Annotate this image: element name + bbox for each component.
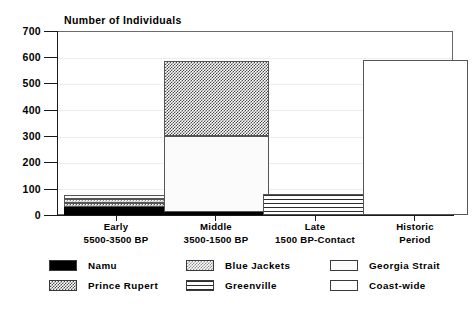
y-tick-label-0: 0 bbox=[0, 209, 41, 221]
y-tick-100 bbox=[44, 189, 57, 190]
y-tick-400 bbox=[44, 110, 57, 111]
legend-item-coast-wide[interactable]: Coast-wide bbox=[330, 278, 426, 292]
bar-historic-segment-coast-wide bbox=[363, 60, 468, 215]
bar-early bbox=[64, 195, 169, 216]
y-tick-300 bbox=[44, 136, 57, 137]
y-tick-700 bbox=[44, 31, 57, 32]
bar-early-segment-namu bbox=[64, 207, 169, 215]
plot-area: Number of Individuals 700 600 500 400 30… bbox=[0, 0, 472, 250]
y-tick-label-700: 700 bbox=[0, 25, 41, 37]
x-axis-label-historic-line2: Period bbox=[355, 234, 472, 247]
bar-middle bbox=[164, 61, 269, 215]
y-tick-0 bbox=[44, 215, 57, 216]
light-checker-swatch-icon bbox=[186, 260, 214, 271]
y-tick-label-600: 600 bbox=[0, 51, 41, 63]
chart-figure: Number of Individuals 700 600 500 400 30… bbox=[0, 0, 472, 310]
legend-item-prince-rupert[interactable]: Prince Rupert bbox=[49, 278, 158, 292]
legend-label-coast-wide: Coast-wide bbox=[369, 280, 426, 291]
gridline-600 bbox=[58, 58, 452, 59]
legend-label-namu: Namu bbox=[88, 260, 117, 271]
white-swatch-icon bbox=[330, 280, 358, 291]
chart-title: Number of Individuals bbox=[64, 14, 182, 26]
legend-label-prince-rupert: Prince Rupert bbox=[88, 280, 158, 291]
solid-black-swatch-icon bbox=[49, 260, 77, 271]
horizontal-lines-swatch-icon bbox=[186, 280, 214, 291]
y-tick-200 bbox=[44, 162, 57, 163]
y-tick-label-300: 300 bbox=[0, 130, 41, 142]
y-tick-label-400: 400 bbox=[0, 104, 41, 116]
legend-item-namu[interactable]: Namu bbox=[49, 258, 117, 272]
y-tick-label-100: 100 bbox=[0, 183, 41, 195]
legend-item-georgia-strait[interactable]: Georgia Strait bbox=[330, 258, 440, 272]
bar-late-segment-greenville bbox=[263, 194, 368, 215]
legend-label-georgia-strait: Georgia Strait bbox=[369, 260, 440, 271]
x-axis-label-historic-line1: Historic bbox=[355, 221, 472, 234]
bar-middle-segment-georgia-strait bbox=[164, 136, 269, 212]
x-axis-label-historic: Historic Period bbox=[355, 221, 472, 246]
y-tick-500 bbox=[44, 83, 57, 84]
dense-checker-swatch-icon bbox=[49, 280, 77, 291]
y-axis bbox=[57, 31, 58, 216]
legend-item-blue-jackets[interactable]: Blue Jackets bbox=[186, 258, 290, 272]
bar-late bbox=[263, 194, 368, 215]
legend-item-greenville[interactable]: Greenville bbox=[186, 278, 277, 292]
y-tick-600 bbox=[44, 57, 57, 58]
legend-label-greenville: Greenville bbox=[225, 280, 277, 291]
chart-legend: Namu Prince Rupert Blue Jackets Greenvil… bbox=[0, 252, 472, 310]
y-tick-label-500: 500 bbox=[0, 77, 41, 89]
bar-middle-segment-namu bbox=[164, 212, 269, 215]
legend-label-blue-jackets: Blue Jackets bbox=[225, 260, 290, 271]
bar-historic bbox=[363, 60, 468, 215]
offwhite-swatch-icon bbox=[330, 260, 358, 271]
y-tick-label-200: 200 bbox=[0, 156, 41, 168]
bar-middle-segment-prince-rupert bbox=[164, 61, 269, 136]
